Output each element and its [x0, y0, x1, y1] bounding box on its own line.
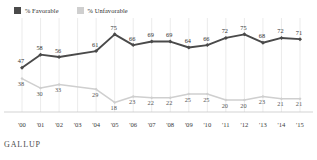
data-label: 71: [296, 29, 302, 36]
data-label: 66: [129, 35, 135, 42]
data-label: 22: [148, 99, 154, 106]
data-label: 23: [129, 98, 135, 105]
data-label: 20: [240, 102, 246, 109]
data-label: 33: [55, 86, 61, 93]
x-tick-14: '14: [278, 121, 286, 128]
data-label: 69: [166, 31, 172, 38]
x-tick-04: '04: [92, 121, 100, 128]
data-label: 75: [111, 24, 117, 31]
data-label: 72: [277, 27, 283, 34]
chart-legend: % Favorable % Unfavorable: [14, 4, 128, 16]
data-label: 22: [166, 99, 172, 106]
data-label: 69: [148, 31, 154, 38]
data-label: 18: [111, 104, 117, 111]
x-tick-06: '06: [129, 121, 137, 128]
x-tick-01: '01: [37, 121, 45, 128]
x-tick-11: '11: [222, 121, 230, 128]
x-tick-13: '13: [259, 121, 267, 128]
data-label: 75: [240, 24, 246, 31]
x-tick-08: '08: [166, 121, 174, 128]
gallup-brand: GALLUP: [4, 140, 41, 149]
data-label: 30: [36, 90, 42, 97]
data-label: 25: [185, 96, 191, 103]
data-labels-favorable: 475856617566696964667275687271: [18, 24, 302, 64]
plot-area: 383033291823222225252020232121 475856617…: [0, 18, 317, 118]
legend-item-favorable: % Favorable: [14, 7, 59, 14]
x-axis-tick-labels: '00'01'02'03'04'05'06'07'08'09'10'11'12'…: [0, 121, 317, 133]
x-tick-07: '07: [148, 121, 156, 128]
legend-item-unfavorable: % Unfavorable: [77, 7, 128, 14]
x-tick-00: '00: [18, 121, 26, 128]
legend-swatch-unfavorable: [77, 7, 84, 14]
x-tick-03: '03: [74, 121, 82, 128]
data-label: 20: [222, 102, 228, 109]
x-tick-05: '05: [111, 121, 119, 128]
data-label: 47: [18, 57, 24, 64]
data-label: 72: [222, 27, 228, 34]
data-label: 68: [259, 32, 265, 39]
data-label: 21: [296, 100, 302, 107]
chart-canvas: 383033291823222225252020232121 475856617…: [0, 18, 317, 118]
data-label: 66: [203, 35, 209, 42]
data-label: 56: [55, 47, 61, 54]
data-label: 23: [259, 98, 265, 105]
data-label: 64: [185, 37, 192, 44]
gallup-line-chart: % Favorable % Unfavorable 38303329182322…: [0, 0, 317, 160]
legend-label-unfavorable: % Unfavorable: [88, 7, 128, 14]
x-tick-02: '02: [55, 121, 63, 128]
legend-label-favorable: % Favorable: [25, 7, 59, 14]
x-tick-15: '15: [296, 121, 304, 128]
data-label: 38: [18, 80, 24, 87]
data-label: 21: [277, 100, 283, 107]
data-label: 29: [92, 91, 98, 98]
legend-swatch-favorable: [14, 7, 21, 14]
data-label: 61: [92, 41, 98, 48]
data-label: 25: [203, 96, 209, 103]
x-tick-10: '10: [203, 121, 211, 128]
data-label: 58: [36, 44, 42, 51]
x-tick-09: '09: [185, 121, 193, 128]
x-tick-12: '12: [240, 121, 248, 128]
